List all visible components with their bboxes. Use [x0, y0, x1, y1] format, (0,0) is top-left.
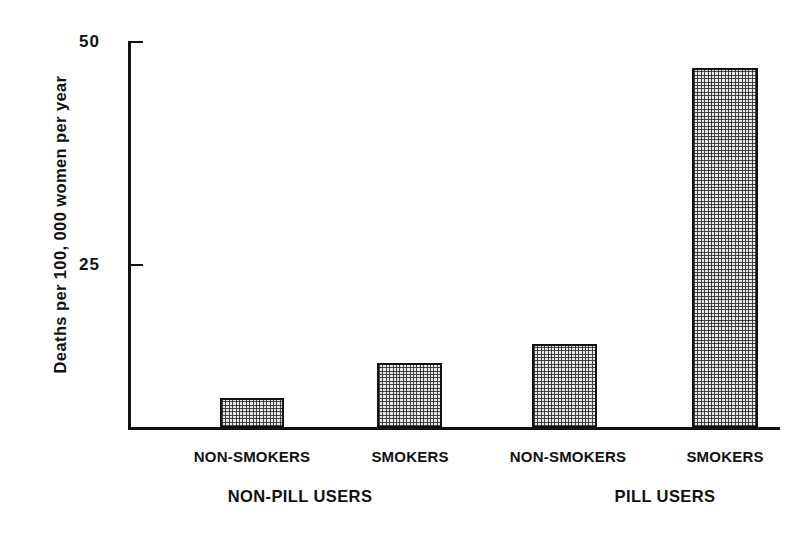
bar-chart-figure: Deaths per 100, 000 women per year 50 25…	[0, 0, 805, 550]
y-tick-mark-50	[129, 41, 143, 43]
y-tick-label-25: 25	[60, 255, 100, 275]
y-axis-line	[128, 41, 131, 430]
y-tick-mark-25	[129, 264, 143, 266]
category-label-1: SMOKERS	[340, 448, 480, 465]
y-axis-title: Deaths per 100, 000 women per year	[51, 25, 70, 425]
bar-pill-smokers	[692, 68, 758, 428]
group-label-non-pill-users: NON-PILL USERS	[180, 487, 420, 506]
category-label-0: NON-SMOKERS	[172, 448, 332, 465]
bar-pill-nonsmokers	[532, 344, 597, 428]
group-label-pill-users: PILL USERS	[560, 487, 770, 506]
category-label-2: NON-SMOKERS	[488, 448, 648, 465]
y-tick-label-50: 50	[60, 32, 100, 52]
category-label-3: SMOKERS	[655, 448, 795, 465]
bar-nonpill-smokers	[377, 363, 442, 428]
bar-nonpill-nonsmokers	[220, 398, 284, 428]
